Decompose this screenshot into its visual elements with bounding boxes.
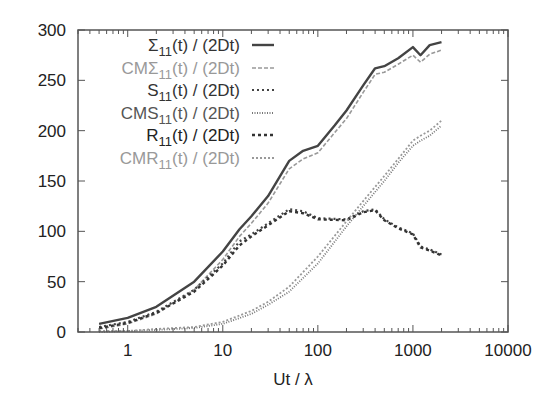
legend-label-5: CMR11(t) / (2Dt) bbox=[120, 149, 240, 172]
x-axis-tick-labels: 110100100010000 bbox=[123, 341, 532, 360]
y-tick-label: 0 bbox=[57, 323, 66, 342]
legend-label-1: CMΣ11(t) / (2Dt) bbox=[122, 59, 240, 82]
y-tick-label: 100 bbox=[38, 222, 66, 241]
x-tick-label: 100 bbox=[304, 341, 332, 360]
y-axis-tick-labels: 050100150200250300 bbox=[38, 21, 66, 342]
x-tick-label: 10000 bbox=[484, 341, 531, 360]
y-tick-label: 300 bbox=[38, 21, 66, 40]
chart: 050100150200250300 110100100010000 Ut / … bbox=[0, 0, 557, 420]
legend-label-0: Σ11(t) / (2Dt) bbox=[148, 36, 240, 59]
x-tick-label: 1000 bbox=[394, 341, 432, 360]
legend: Σ11(t) / (2Dt)CMΣ11(t) / (2Dt)S11(t) / (… bbox=[120, 36, 274, 172]
x-tick-label: 10 bbox=[213, 341, 232, 360]
y-tick-label: 50 bbox=[47, 273, 66, 292]
x-tick-label: 1 bbox=[123, 341, 132, 360]
legend-label-4: R11(t) / (2Dt) bbox=[146, 126, 240, 149]
y-tick-label: 200 bbox=[38, 122, 66, 141]
y-tick-label: 150 bbox=[38, 172, 66, 191]
y-tick-label: 250 bbox=[38, 71, 66, 90]
legend-label-3: CMS11(t) / (2Dt) bbox=[121, 104, 240, 127]
x-axis-label: Ut / λ bbox=[273, 370, 313, 389]
legend-label-2: S11(t) / (2Dt) bbox=[147, 81, 240, 104]
